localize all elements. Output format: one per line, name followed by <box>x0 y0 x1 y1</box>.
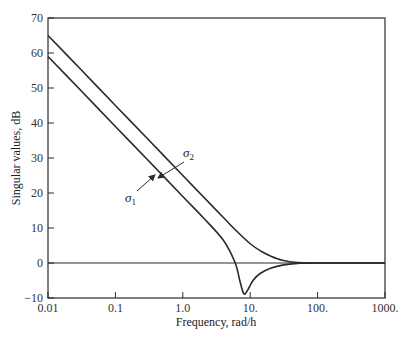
y-tick-label: 40 <box>31 116 43 130</box>
x-tick-label: 1000. <box>372 301 399 315</box>
y-tick-label: 60 <box>31 46 43 60</box>
x-tick-label: 100. <box>307 301 328 315</box>
y-tick-label: 50 <box>31 81 43 95</box>
y-tick-label: 30 <box>31 151 43 165</box>
y-tick-label: 0 <box>37 256 43 270</box>
sigma1-arrow-icon <box>137 175 155 191</box>
plot-border <box>48 18 385 298</box>
x-tick-label: 0.01 <box>38 301 59 315</box>
x-tick-label: 1.0 <box>175 301 190 315</box>
series-line-sigma2 <box>48 36 385 264</box>
sigma2-label: σ2 <box>183 145 194 162</box>
sigma1-label: σ1 <box>125 190 136 207</box>
y-axis-title: Singular values, dB <box>9 111 23 205</box>
y-axis-ticks: −10010203040506070 <box>24 11 54 305</box>
y-tick-label: 10 <box>31 221 43 235</box>
sigma2-arrow-icon <box>158 162 184 178</box>
plot-frame <box>48 18 385 298</box>
x-axis-ticks: 0.010.11.010.100.1000. <box>38 292 399 315</box>
series-lines <box>48 36 385 295</box>
x-tick-label: 0.1 <box>108 301 123 315</box>
y-tick-label: 70 <box>31 11 43 25</box>
series-line-sigma1 <box>48 57 385 295</box>
singular-values-chart: −10010203040506070 0.010.11.010.100.1000… <box>0 0 412 343</box>
y-tick-label: 20 <box>31 186 43 200</box>
x-axis-title: Frequency, rad/h <box>176 315 257 329</box>
x-tick-label: 10. <box>243 301 258 315</box>
